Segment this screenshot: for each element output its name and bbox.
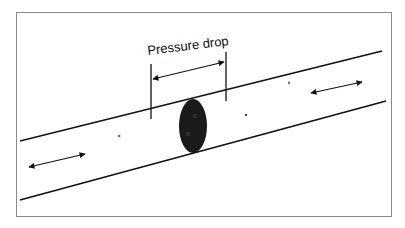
speck (118, 135, 121, 137)
pig-ellipse (179, 99, 207, 153)
speck (288, 82, 289, 85)
pipeline-pig-diagram: Pressure drop (0, 0, 405, 228)
speck (245, 114, 247, 116)
